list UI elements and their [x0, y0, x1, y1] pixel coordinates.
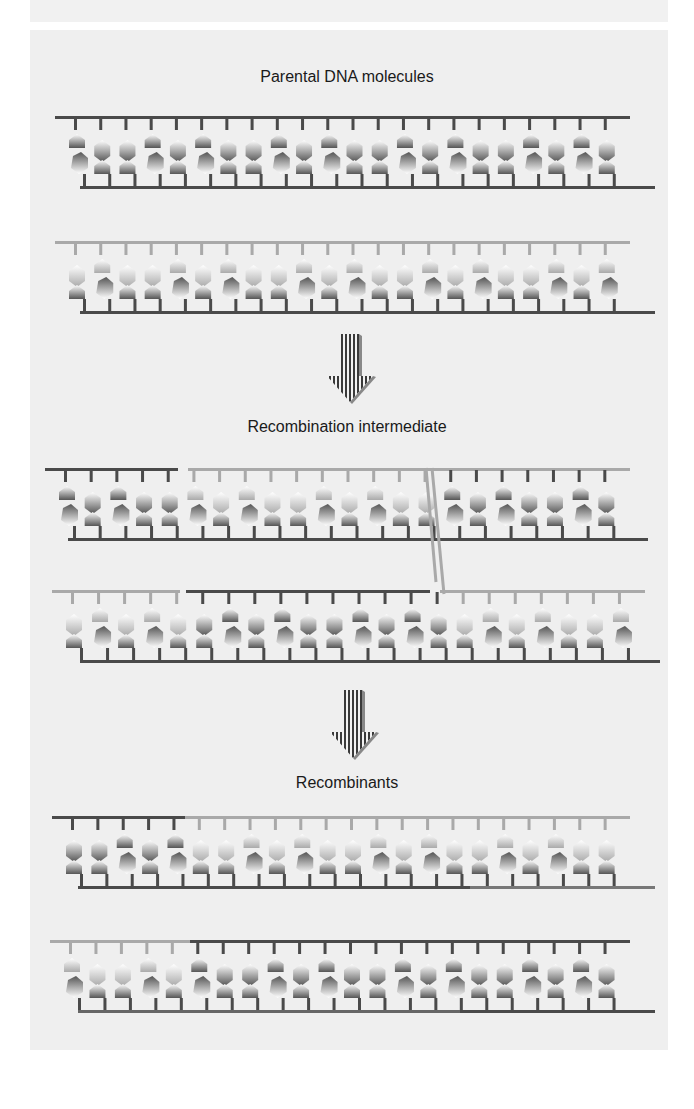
stage-label-intermediate: Recombination intermediate [0, 418, 694, 436]
crossover-strand [0, 462, 694, 662]
header-strip [30, 0, 668, 22]
down-arrow-icon [328, 690, 380, 760]
dna-molecule-recombinant-1 [0, 810, 694, 900]
dna-molecule-parental-1 [0, 110, 694, 200]
stage-label-parental: Parental DNA molecules [0, 68, 694, 86]
down-arrow-icon [325, 334, 377, 404]
dna-molecule-parental-2 [0, 235, 694, 325]
stage-label-recombinants: Recombinants [0, 774, 694, 792]
dna-molecule-recombinant-2 [0, 934, 694, 1024]
